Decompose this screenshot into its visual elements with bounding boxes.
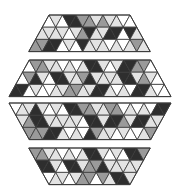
- band-4-bottom: [29, 148, 151, 185]
- hexagon-tiling-diagram: [0, 0, 178, 189]
- band-2-upper-middle: [9, 60, 171, 97]
- band-3-lower-middle: [9, 103, 171, 140]
- tiling-bands: [9, 15, 171, 185]
- band-1-top: [29, 15, 151, 52]
